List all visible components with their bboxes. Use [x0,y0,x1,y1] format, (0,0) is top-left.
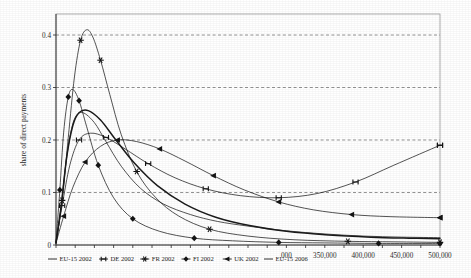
legend-label: EU-15 2002 [60,255,92,262]
legend-label: UK 2002 [234,255,258,262]
y-tick-label: 0.1 [42,189,51,197]
y-axis-title: share of direct payments [19,94,28,167]
legend-label: EU-15 2006 [276,255,309,262]
line-chart: 00.10.20.30.4 000350,000400,000450,00050… [0,0,471,278]
legend-label: DE 2002 [111,255,135,262]
y-tick-label: 0.2 [42,137,51,145]
x-tick-label: 350,000 [313,252,337,260]
x-tick-label: 500,000 [428,252,452,260]
chart-figure: 00.10.20.30.4 000350,000400,000450,00050… [0,0,471,278]
y-tick-label: 0.4 [42,32,51,40]
y-tick-label: 0.3 [42,84,51,92]
x-tick-label: 450,000 [390,252,414,260]
y-tick-label: 0 [47,242,51,250]
chart-background [0,0,471,278]
legend-label: FR 2002 [152,255,175,262]
x-tick-label: 400,000 [352,252,376,260]
legend-label: FI 2002 [193,255,214,262]
